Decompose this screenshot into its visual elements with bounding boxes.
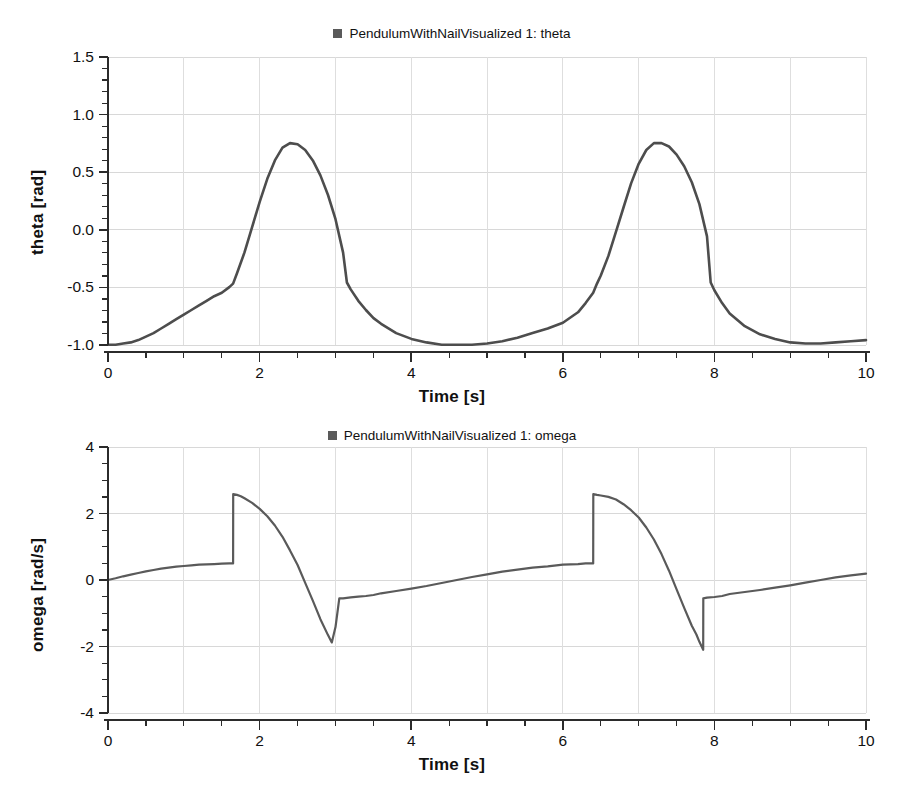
chart-page: PendulumWithNailVisualized 1: theta bbox=[0, 0, 904, 802]
theta-xtick-5: 8 bbox=[684, 364, 744, 382]
theta-xtick-6: 10 bbox=[836, 364, 896, 382]
omega-y-axis-title: omega [rad/s] bbox=[28, 538, 48, 652]
theta-ytick-2: 1.0 bbox=[36, 106, 94, 124]
omega-xtick-2: 2 bbox=[230, 732, 290, 750]
theta-xtick-3: 4 bbox=[381, 364, 441, 382]
theta-y-axis-title: theta [rad] bbox=[28, 170, 48, 255]
omega-xtick-1: 0 bbox=[78, 732, 138, 750]
omega-x-axis-title: Time [s] bbox=[0, 755, 904, 775]
omega-xtick-4: 6 bbox=[533, 732, 593, 750]
theta-ytick-5: -0.5 bbox=[36, 278, 94, 296]
theta-ytick-1: 1.5 bbox=[36, 48, 94, 66]
theta-plot-area bbox=[0, 0, 904, 402]
theta-xtick-1: 0 bbox=[78, 364, 138, 382]
theta-ytick-6: -1.0 bbox=[36, 336, 94, 354]
omega-xtick-6: 10 bbox=[836, 732, 896, 750]
omega-chart-panel: PendulumWithNailVisualized 1: omega bbox=[0, 402, 904, 802]
theta-xtick-4: 6 bbox=[533, 364, 593, 382]
omega-xtick-5: 8 bbox=[684, 732, 744, 750]
omega-ytick-2: 2 bbox=[36, 505, 94, 523]
omega-xtick-3: 4 bbox=[381, 732, 441, 750]
omega-ytick-5: -4 bbox=[36, 704, 94, 722]
theta-chart-panel: PendulumWithNailVisualized 1: theta bbox=[0, 0, 904, 402]
omega-ytick-1: 4 bbox=[36, 438, 94, 456]
theta-xtick-2: 2 bbox=[230, 364, 290, 382]
